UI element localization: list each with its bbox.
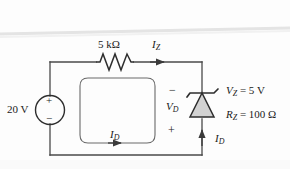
source-plus-sign: + (46, 95, 52, 106)
current-id-right-label: ID (215, 133, 224, 146)
zener-voltage-spec-label: VZ = 5 V (226, 85, 265, 98)
zener-diode-symbol (187, 89, 218, 117)
vd-plus-sign: + (168, 124, 175, 136)
resistor-value-label: 5 kΩ (98, 39, 120, 50)
current-iz-label: IZ (152, 39, 160, 52)
vd-minus-sign: − (169, 84, 176, 96)
current-id-loop-label: ID (110, 129, 119, 142)
source-value-label: 20 V (7, 104, 29, 115)
outer-loop-wires (50, 62, 202, 155)
zener-resistance-spec-label: RZ = 100 Ω (226, 109, 276, 122)
diode-voltage-label: VD (166, 101, 178, 114)
source-minus-sign: − (46, 113, 52, 124)
circuit-diagram-page: 5 kΩ IZ 20 V + − VZ = 5 V RZ = 100 Ω − V… (0, 0, 290, 169)
resistor-symbol (96, 54, 134, 70)
